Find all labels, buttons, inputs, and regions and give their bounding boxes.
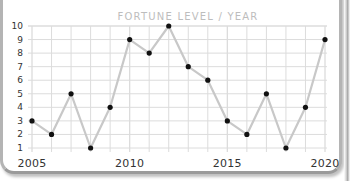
data-point xyxy=(68,91,73,96)
data-points xyxy=(29,23,327,150)
data-point xyxy=(322,37,327,42)
y-tick-label: 10 xyxy=(12,21,24,31)
data-point xyxy=(205,78,210,83)
chart-title: FORTUNE LEVEL / YEAR xyxy=(118,11,259,22)
data-point xyxy=(49,132,54,137)
y-tick-label: 1 xyxy=(17,143,23,153)
y-tick-label: 6 xyxy=(17,75,23,85)
data-point xyxy=(127,37,132,42)
data-point xyxy=(166,23,171,28)
y-tick-label: 2 xyxy=(17,129,23,139)
data-point xyxy=(264,91,269,96)
data-point xyxy=(225,118,230,123)
data-point xyxy=(108,105,113,110)
x-tick-label: 2010 xyxy=(115,157,144,170)
x-tick-label: 2015 xyxy=(213,157,242,170)
y-tick-label: 5 xyxy=(17,89,23,99)
data-point xyxy=(303,105,308,110)
x-tick-label: 2020 xyxy=(310,157,339,170)
data-point xyxy=(147,51,152,56)
y-tick-label: 7 xyxy=(17,62,23,72)
data-point xyxy=(244,132,249,137)
x-axis: 2005201020152020 xyxy=(17,157,339,170)
y-axis: 12345678910 xyxy=(12,21,24,153)
series-line xyxy=(32,26,325,148)
y-tick-label: 4 xyxy=(17,102,23,112)
y-tick-label: 9 xyxy=(17,35,23,45)
data-point xyxy=(88,145,93,150)
y-tick-label: 8 xyxy=(17,48,23,58)
line-chart: FORTUNE LEVEL / YEAR 12345678910 2005201… xyxy=(0,0,350,181)
y-tick-label: 3 xyxy=(17,116,23,126)
x-tick-label: 2005 xyxy=(17,157,46,170)
data-point xyxy=(29,118,34,123)
data-point xyxy=(186,64,191,69)
data-point xyxy=(283,145,288,150)
